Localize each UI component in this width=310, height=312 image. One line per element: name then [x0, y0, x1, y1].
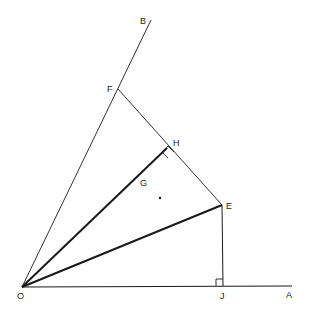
right-angle-marker-J — [216, 279, 223, 286]
segment-OH — [22, 148, 167, 287]
ray-OA — [22, 286, 292, 287]
ray-OB — [22, 20, 151, 287]
segment-OE — [22, 205, 222, 287]
label-A: A — [286, 290, 292, 300]
segment-FE — [118, 89, 222, 205]
label-F: F — [107, 84, 113, 94]
label-E: E — [226, 201, 232, 211]
label-B: B — [140, 16, 146, 26]
geometry-diagram: O A B F H E J G — [0, 0, 310, 312]
label-G: G — [140, 178, 147, 188]
label-J: J — [220, 291, 225, 301]
label-H: H — [173, 138, 180, 148]
label-O: O — [17, 291, 24, 301]
segment-EJ — [222, 205, 223, 286]
center-dot — [159, 197, 161, 199]
